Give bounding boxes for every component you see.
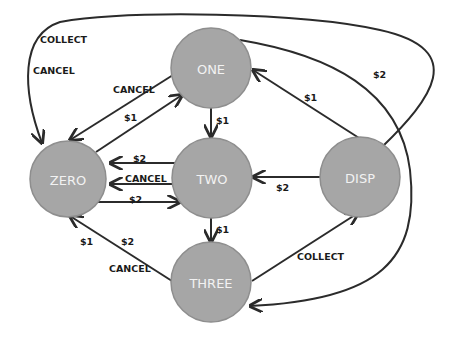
node-one: ONE [171, 28, 251, 108]
label-disp-one: $1 [304, 92, 317, 103]
node-label-two: TWO [195, 172, 227, 187]
label-disp-zero-collect: COLLECT [40, 34, 88, 45]
label-zero-two: $2 [129, 194, 142, 205]
node-zero: ZERO [30, 141, 106, 217]
node-disp: DISP [320, 137, 400, 217]
label-three-zero-1: $1 [80, 236, 93, 247]
node-label-disp: DISP [345, 171, 375, 186]
node-label-three: THREE [188, 276, 232, 291]
node-label-zero: ZERO [50, 173, 86, 188]
diagram-svg: ONE ZERO TWO DISP THREE COLLECT CANCEL C… [0, 0, 457, 337]
edge-disp-one [253, 70, 359, 138]
edge-three-disp [252, 213, 358, 281]
label-three-zero-cancel: CANCEL [109, 263, 151, 274]
label-two-zero-cancel: CANCEL [125, 173, 167, 184]
label-disp-zero-cancel: CANCEL [33, 65, 75, 76]
node-two: TWO [172, 138, 252, 218]
label-three-zero-2: $2 [121, 236, 134, 247]
label-disp-two: $2 [276, 182, 289, 193]
label-zero-one: $1 [124, 112, 137, 123]
label-three-disp-collect: COLLECT [297, 251, 345, 262]
node-label-one: ONE [197, 62, 225, 77]
label-one-two: $1 [216, 115, 229, 126]
label-one-three: $2 [373, 69, 386, 80]
label-two-zero-2: $2 [133, 153, 146, 164]
label-two-three: $1 [216, 224, 229, 235]
edge-zero-one [96, 95, 182, 152]
node-three: THREE [171, 242, 251, 322]
label-one-zero-cancel: CANCEL [113, 84, 155, 95]
state-diagram: ONE ZERO TWO DISP THREE COLLECT CANCEL C… [0, 0, 457, 337]
